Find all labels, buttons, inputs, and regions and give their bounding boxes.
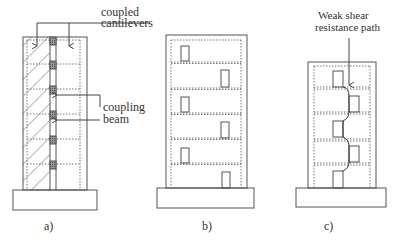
foundation-a	[13, 190, 97, 210]
label-cantilevers: cantilevers	[101, 17, 153, 29]
wall-outline-b	[166, 35, 247, 188]
label-weak-shear: Weak shear	[318, 9, 369, 21]
caption-b: b)	[202, 220, 212, 232]
caption-a: a)	[44, 220, 53, 232]
coupling-beams	[50, 37, 56, 169]
weak-shear-path	[343, 87, 349, 171]
foundation-c	[296, 188, 386, 207]
panel-c	[296, 38, 386, 207]
label-resistance-path: resistance path	[315, 21, 380, 33]
coupling-beam-arrow-1	[57, 95, 100, 107]
label-beam: beam	[103, 113, 129, 125]
wall-outline-c	[308, 62, 376, 188]
panel-a	[13, 23, 150, 210]
figure-canvas	[0, 0, 399, 240]
caption-c: c)	[324, 220, 333, 232]
panel-b	[157, 35, 254, 208]
foundation-b	[157, 188, 254, 208]
openings-b	[181, 46, 230, 188]
